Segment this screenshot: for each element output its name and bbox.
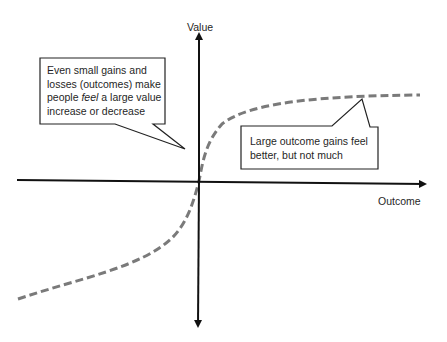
- right-callout-text: Large outcome gains feel better, but not…: [250, 135, 378, 162]
- left-callout-line-2: losses (outcomes) make: [47, 78, 165, 92]
- left-callout-text: Even small gains and losses (outcomes) m…: [47, 64, 165, 118]
- x-axis-label: Outcome: [378, 195, 421, 208]
- right-callout-line-1: Large outcome gains feel: [250, 135, 378, 149]
- y-axis-down: [198, 181, 199, 326]
- x-axis: [17, 180, 425, 184]
- left-callout-line-4: increase or decrease: [47, 105, 165, 119]
- y-axis-label: Value: [187, 21, 213, 34]
- left-callout-emphasis: feel: [81, 91, 98, 103]
- left-callout-line-3-post: a large value: [98, 91, 161, 103]
- right-callout-line-2: better, but not much: [250, 149, 378, 163]
- left-callout-line-1: Even small gains and: [47, 64, 165, 78]
- value-function-diagram: [0, 0, 447, 342]
- left-callout-line-3-pre: people: [47, 91, 81, 103]
- left-callout-line-3: people feel a large value: [47, 91, 165, 105]
